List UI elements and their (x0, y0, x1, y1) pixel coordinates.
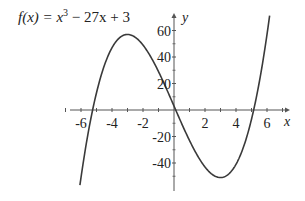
y-tick-label: 40 (157, 50, 171, 65)
y-tick-label: 20 (157, 77, 171, 92)
y-tick-label: 60 (157, 24, 171, 39)
y-axis-label: y (180, 10, 189, 25)
x-tick-label: -6 (75, 116, 87, 131)
x-tick-label: -4 (106, 116, 118, 131)
x-tick-label: -2 (137, 116, 149, 131)
function-plot: f(x) = x3 − 27x + 3 y x -6-4-2246 604020… (0, 0, 305, 201)
x-tick-label: 6 (264, 116, 271, 131)
axes (66, 13, 291, 191)
y-tick-labels: 604020-20-40 (152, 24, 171, 172)
x-tick-label: 4 (233, 116, 240, 131)
y-tick-label: -40 (152, 156, 171, 171)
x-tick-label: 2 (202, 116, 209, 131)
chart-title: f(x) = x3 − 27x + 3 (18, 7, 130, 26)
cubic-curve (80, 16, 270, 186)
x-axis-arrow-icon (285, 108, 290, 113)
y-tick-label: -20 (152, 130, 171, 145)
x-axis-label: x (283, 114, 291, 129)
